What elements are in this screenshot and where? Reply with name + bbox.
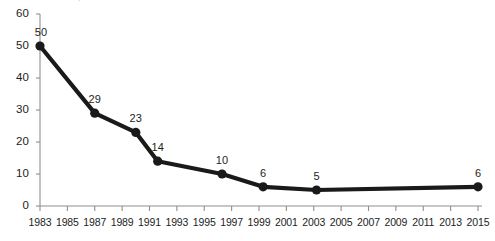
y-tick-label-0: 0 (3, 200, 29, 212)
y-tick-label-30: 30 (3, 104, 29, 116)
data-point-label-1991.6: 14 (145, 142, 171, 153)
data-point-label-1999.3: 6 (250, 168, 276, 179)
data-point-label-1983: 50 (28, 27, 54, 38)
y-tick-label-40: 40 (3, 72, 29, 84)
y-tick-label-50: 50 (3, 40, 29, 52)
y-tick-label-20: 20 (3, 136, 29, 148)
chart-container: . 0102030405060 198319851987198919911993… (0, 0, 495, 241)
x-tick-label-2015: 2015 (458, 217, 495, 228)
line-chart-plot (0, 0, 495, 241)
data-point-label-2015: 6 (465, 168, 491, 179)
data-point-label-1996.3: 10 (209, 155, 235, 166)
data-point-label-1990: 23 (123, 113, 149, 124)
data-point-label-1987: 29 (82, 94, 108, 105)
y-tick-label-10: 10 (3, 168, 29, 180)
data-point-label-2003.2: 5 (303, 171, 329, 182)
y-tick-label-60: 60 (3, 8, 29, 20)
axes (36, 14, 482, 211)
